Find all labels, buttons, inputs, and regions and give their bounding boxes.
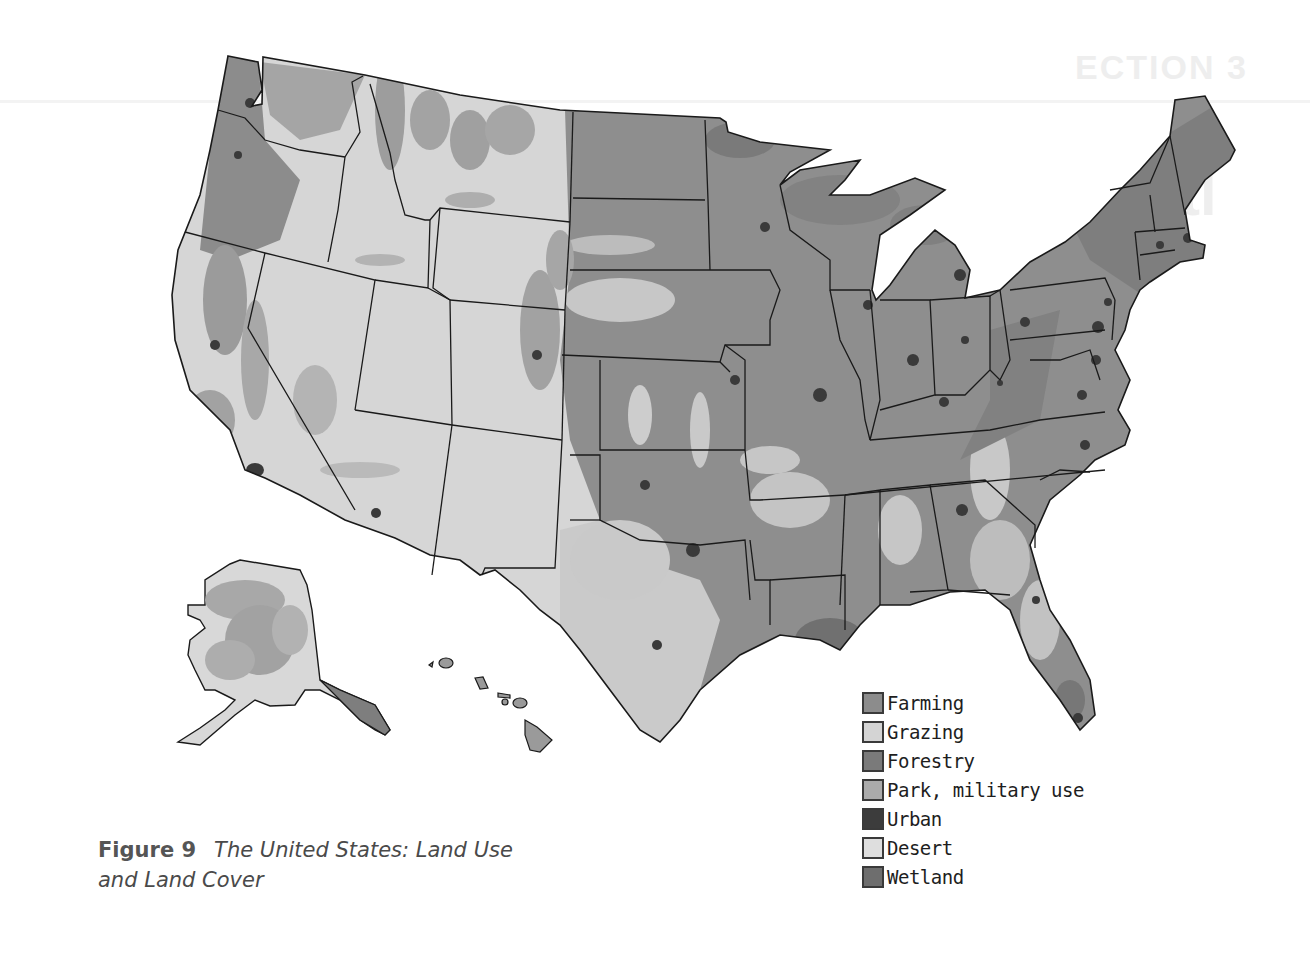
urban-swatch-icon [862,808,884,830]
legend-item-desert: Desert [862,833,1084,862]
legend-label: Desert [887,837,953,859]
farming-swatch-icon [862,692,884,714]
desert-swatch-icon [862,837,884,859]
legend-label: Urban [887,808,942,830]
figure-title-line1: The United States: Land Use [214,838,513,862]
contiguous-us [172,50,1240,760]
figure-number: Figure 9 [98,838,196,862]
figure-caption: Figure 9The United States: Land Use and … [98,835,598,895]
legend-label: Wetland [887,866,964,888]
legend-label: Grazing [887,721,964,743]
legend-item-wetland: Wetland [862,862,1084,891]
legend-label: Forestry [887,750,975,772]
legend-item-urban: Urban [862,804,1084,833]
hawaii [429,658,552,752]
legend-label: Farming [887,692,964,714]
us-land-use-map [0,0,1310,957]
map-legend: Farming Grazing Forestry Park, military … [862,688,1084,891]
legend-item-farming: Farming [862,688,1084,717]
park-swatch-icon [862,779,884,801]
legend-label: Park, military use [887,779,1084,801]
legend-item-forestry: Forestry [862,746,1084,775]
legend-item-grazing: Grazing [862,717,1084,746]
alaska [178,560,390,745]
wetland-swatch-icon [862,866,884,888]
figure-title-line2: and Land Cover [98,868,264,892]
legend-item-park: Park, military use [862,775,1084,804]
forestry-swatch-icon [862,750,884,772]
grazing-swatch-icon [862,721,884,743]
